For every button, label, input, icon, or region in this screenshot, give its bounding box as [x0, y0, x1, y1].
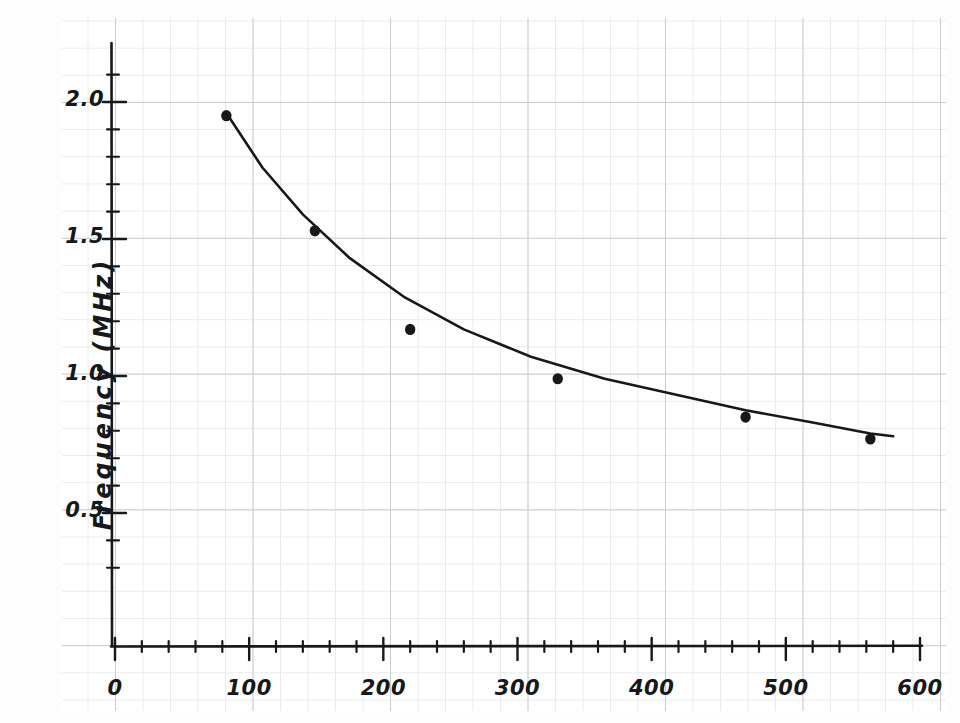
axes-group [103, 43, 922, 660]
fit-curve [226, 113, 893, 436]
data-point [310, 225, 320, 236]
data-point [740, 412, 750, 423]
x-tick-label: 300 [488, 676, 548, 700]
y-tick-label: 1.5 [60, 224, 104, 248]
y-tick-label: 0.5 [60, 498, 104, 522]
data-point [553, 373, 563, 384]
data-point [405, 324, 415, 335]
hand-drawn-chart-figure: Frequency (MHz) 0.51.01.52.0010020030040… [0, 0, 960, 723]
plot-drawing [0, 0, 960, 723]
fit-curve-group [226, 113, 893, 436]
y-tick-label: 1.0 [60, 361, 104, 385]
x-tick-label: 200 [353, 676, 413, 700]
x-tick-label: 500 [756, 676, 816, 700]
x-tick-label: 100 [219, 676, 279, 700]
data-point [221, 110, 231, 121]
x-tick-label: 400 [622, 676, 682, 700]
x-tick-label: 600 [890, 676, 950, 700]
data-points-group [221, 110, 875, 445]
data-point [865, 433, 875, 444]
y-tick-label: 2.0 [60, 87, 104, 111]
x-tick-label: 0 [85, 676, 145, 700]
y-axis-line [111, 43, 112, 646]
